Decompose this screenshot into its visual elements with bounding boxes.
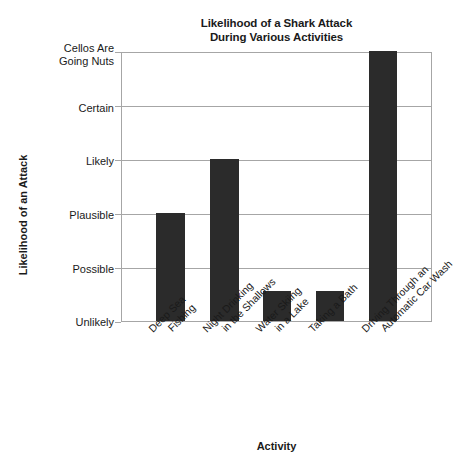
y-tick-label-line-2: Going Nuts bbox=[24, 55, 114, 68]
bar-driving-through-an-automatic-car-wash bbox=[369, 51, 397, 321]
y-tick-label-line-1: Cellos Are bbox=[24, 42, 114, 55]
y-tick-label-certain: Certain bbox=[24, 102, 114, 115]
chart-title-line-1: Likelihood of a Shark Attack bbox=[121, 16, 432, 30]
y-tick-label-possible: Possible bbox=[24, 263, 114, 276]
y-tick-label-unlikely: Unlikely bbox=[24, 316, 114, 329]
chart-title: Likelihood of a Shark Attack During Vari… bbox=[121, 16, 432, 44]
y-tick-label-plausible: Plausible bbox=[24, 209, 114, 222]
x-axis-title: Activity bbox=[121, 440, 432, 452]
chart-title-line-2: During Various Activities bbox=[121, 30, 432, 44]
bar-chart: Likelihood of a Shark Attack During Vari… bbox=[0, 0, 458, 471]
y-tick-label-cellos-are-going-nuts: Cellos Are Going Nuts bbox=[24, 42, 114, 68]
y-tick-mark-unlikely bbox=[115, 322, 121, 323]
y-tick-label-likely: Likely bbox=[24, 155, 114, 168]
